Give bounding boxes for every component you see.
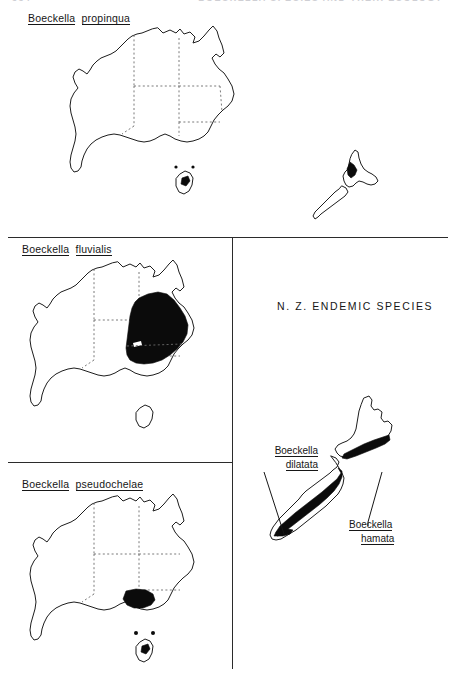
- callout-hamata-genus: Boeckella: [349, 519, 392, 531]
- running-head-title: BOECKELLA SPECIES AND THEIR ECOLOGY: [198, 0, 443, 3]
- panel-label-fluvialis-species: fluvialis: [76, 243, 112, 256]
- running-head: 334 BOECKELLA SPECIES AND THEIR ECOLOGY: [0, 0, 451, 5]
- divider-vertical: [232, 237, 233, 669]
- panel-label-fluvialis: Boeckella fluvialis: [22, 243, 112, 255]
- callout-hamata: Boeckella hamata: [349, 518, 439, 546]
- divider-top-row2: [8, 237, 448, 238]
- divider-row2-row3: [8, 462, 232, 463]
- callout-dilatata-genus: Boeckella: [275, 445, 318, 457]
- map-australia-fluvialis: [20, 258, 220, 438]
- panel-label-fluvialis-genus: Boeckella: [22, 243, 69, 256]
- figure-distribution-maps: 334 BOECKELLA SPECIES AND THEIR ECOLOGY …: [0, 0, 451, 676]
- panel-label-pseudochelae-species: pseudochelae: [76, 478, 144, 491]
- callout-hamata-species: hamata: [361, 533, 394, 545]
- map-australia-pseudochelae: [20, 492, 220, 672]
- nz-panel-heading: N. Z. ENDEMIC SPECIES: [277, 300, 433, 312]
- callout-dilatata: Boeckella dilatata: [246, 444, 318, 472]
- map-new-zealand-propinqua: [312, 148, 394, 224]
- map-australia-propinqua: [62, 24, 258, 204]
- leader-line-dilatata: [250, 470, 310, 550]
- panel-label-propinqua: Boeckella propinqua: [28, 12, 130, 24]
- panel-label-pseudochelae: Boeckella pseudochelae: [22, 478, 143, 490]
- running-head-page-number: 334: [12, 0, 31, 3]
- callout-dilatata-species: dilatata: [286, 459, 318, 471]
- panel-label-pseudochelae-genus: Boeckella: [22, 478, 69, 491]
